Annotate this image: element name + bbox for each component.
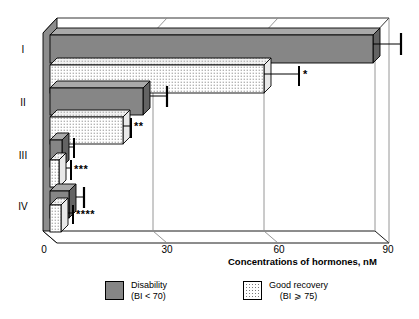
chart-plot-area — [0, 0, 419, 319]
x-tick-label-90: 90 — [373, 244, 403, 255]
significance-marker-I: * — [303, 70, 308, 78]
x-tick-label-60: 60 — [264, 244, 294, 255]
x-axis-title: Concentrations of hormones, nM — [228, 256, 377, 267]
legend-item-disability: Disability (BI < 70) — [105, 280, 167, 301]
bar-chart: I II III IV 0 30 60 90 * ** *** **** Con… — [0, 0, 419, 319]
bar-III-recovery — [50, 153, 66, 187]
legend-item-recovery: Good recovery (BI ⩾ 75) — [243, 280, 328, 301]
chart-legend: Disability (BI < 70) Good recovery (BI ⩾… — [0, 278, 419, 314]
legend-label-recovery-title: Good recovery — [269, 280, 328, 291]
category-label-IV: IV — [12, 201, 34, 212]
legend-label-disability-sub: (BI < 70) — [131, 291, 167, 302]
legend-label-disability: Disability (BI < 70) — [131, 280, 167, 301]
legend-label-recovery: Good recovery (BI ⩾ 75) — [269, 280, 328, 301]
category-label-II: II — [12, 97, 34, 108]
significance-marker-III: *** — [74, 165, 88, 173]
legend-label-disability-title: Disability — [131, 280, 167, 291]
category-label-III: III — [12, 150, 34, 161]
legend-swatch-disability-icon — [105, 281, 124, 300]
bar-IV-recovery — [50, 198, 68, 232]
x-tick-label-30: 30 — [152, 244, 182, 255]
x-tick-label-0: 0 — [29, 244, 59, 255]
significance-marker-II: ** — [134, 122, 144, 130]
legend-label-recovery-sub: (BI ⩾ 75) — [269, 291, 328, 302]
legend-swatch-recovery-icon — [243, 281, 262, 300]
chart-floor — [43, 231, 389, 243]
category-label-I: I — [12, 44, 34, 55]
significance-marker-IV: **** — [76, 210, 95, 218]
